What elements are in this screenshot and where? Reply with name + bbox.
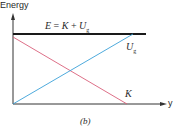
y-axis-label: Energy xyxy=(0,0,29,10)
potential-energy-line xyxy=(13,34,133,104)
k-symbol: K xyxy=(62,20,69,31)
panel-label: (b) xyxy=(80,116,91,126)
ug-subscript: g xyxy=(133,48,136,54)
x-axis-arrow-icon xyxy=(160,102,167,106)
y-axis-arrow-icon xyxy=(11,13,15,20)
e-symbol: E xyxy=(45,20,51,31)
plus-sign: + xyxy=(71,20,77,31)
potential-energy-label: Ug xyxy=(126,41,136,54)
kinetic-energy-label: K xyxy=(125,88,132,99)
u-subscript: g xyxy=(86,27,89,33)
energy-diagram xyxy=(0,0,179,131)
x-axis-label: y xyxy=(168,98,173,108)
equals-sign: = xyxy=(54,20,60,31)
total-energy-label: E = K + Ug xyxy=(45,20,89,33)
